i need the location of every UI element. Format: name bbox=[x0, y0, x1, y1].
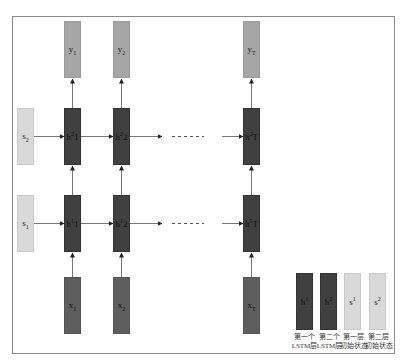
legend-label-state1: 第一层初始状态 bbox=[340, 333, 367, 351]
connection-arrows bbox=[0, 0, 401, 363]
hidden-layer2-stepT: h2T bbox=[243, 108, 260, 165]
output-box-2: y2 bbox=[113, 21, 130, 78]
hidden-layer1-step1: h11 bbox=[64, 195, 81, 252]
output-box-1: y1 bbox=[64, 21, 81, 78]
hidden-layer1-stepT: h1T bbox=[243, 195, 260, 252]
legend-label-state2: 第二层初始状态 bbox=[365, 333, 392, 351]
legend-swatch-layer2: h2 bbox=[320, 273, 337, 330]
hidden-layer2-step2: h22 bbox=[113, 108, 130, 165]
legend-label-layer1: 第一个LSTM层 bbox=[291, 333, 318, 351]
hidden-layer2-step1: h21 bbox=[64, 108, 81, 165]
input-box-T: xT bbox=[243, 277, 260, 334]
output-box-T: yT bbox=[243, 21, 260, 78]
hidden-layer1-step2: h12 bbox=[113, 195, 130, 252]
legend-swatch-layer1: h1 bbox=[296, 273, 313, 330]
legend-swatch-state1: s1 bbox=[344, 273, 361, 330]
legend-label-layer2: 第二个LSTM层 bbox=[316, 333, 343, 351]
initial-state-layer2: s2 bbox=[17, 108, 34, 165]
input-box-1: x1 bbox=[64, 277, 81, 334]
initial-state-layer1: s1 bbox=[17, 195, 34, 252]
input-box-2: x2 bbox=[113, 277, 130, 334]
legend-swatch-state2: s2 bbox=[369, 273, 386, 330]
